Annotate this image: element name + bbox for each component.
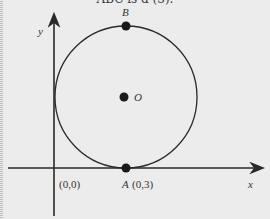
circle-diagram: B O A (0,3) (0,0) x y: [0, 0, 270, 219]
label-x-axis: x: [247, 178, 253, 190]
point-o: [120, 93, 129, 102]
label-b: B: [122, 6, 129, 18]
label-o: O: [134, 91, 142, 103]
label-origin: (0,0): [59, 178, 80, 191]
label-y-axis: y: [37, 25, 43, 37]
point-a: [122, 164, 131, 173]
label-a-coords: (0,3): [132, 178, 153, 191]
label-a: A: [121, 178, 129, 190]
point-b: [122, 22, 131, 31]
